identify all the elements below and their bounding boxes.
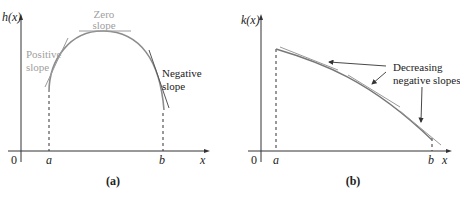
caption-a: (a) (106, 174, 120, 188)
caption-b: (b) (346, 174, 361, 188)
zero-slope-label-2: slope (92, 19, 115, 31)
negative-slope-tangent (149, 50, 169, 108)
annotation-arrow-2 (372, 72, 386, 84)
positive-slope-label-2: slope (26, 61, 49, 73)
figure: h(x) x 0 a b Zero slope Positive slope N… (0, 0, 460, 198)
a-tick-label: a (46, 153, 52, 167)
b-tick-label: b (159, 153, 165, 167)
origin-label: 0 (251, 153, 257, 167)
a-tick-label: a (273, 153, 279, 167)
annotation-arrow-3 (421, 87, 422, 122)
decreasing-slopes-label: Decreasing (393, 61, 443, 73)
origin-label: 0 (11, 153, 17, 167)
panel-b: k(x) x 0 a b Decreasing negative slopes … (241, 13, 460, 188)
tangent-1 (280, 47, 338, 70)
x-axis-label: x (199, 153, 206, 167)
panel-a: h(x) x 0 a b Zero slope Positive slope N… (2, 8, 210, 188)
y-axis-label: k(x) (241, 13, 260, 27)
annotation-arrow-1 (329, 62, 386, 66)
positive-slope-label: Positive (26, 48, 62, 60)
decreasing-slopes-label-2: negative slopes (393, 74, 460, 86)
y-axis-label: h(x) (2, 10, 21, 24)
x-axis-label: x (441, 153, 448, 167)
negative-slope-label: Negative (162, 67, 202, 79)
negative-slope-label-2: slope (162, 80, 185, 92)
tangent-3 (400, 111, 441, 145)
b-tick-label: b (428, 153, 434, 167)
